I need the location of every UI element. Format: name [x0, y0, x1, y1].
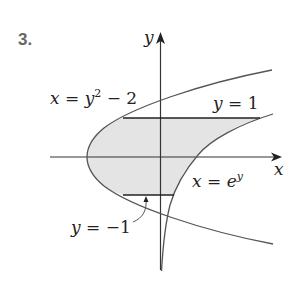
parabola-label: x = y2 − 2	[50, 87, 137, 108]
problem-number: 3.	[18, 30, 32, 49]
exp-label: x = ey	[192, 170, 244, 191]
pointer-line	[133, 199, 146, 222]
pointer-arrow-icon	[144, 196, 149, 202]
diagram: 3. y x x = y2 − 2 x = ey y = 1 y = −1	[0, 0, 292, 281]
y-axis-label: y	[143, 27, 154, 47]
y-equals-neg1-label: y = −1	[70, 217, 131, 237]
y-equals-1-label: y = 1	[212, 93, 258, 113]
x-axis-label: x	[274, 159, 284, 179]
